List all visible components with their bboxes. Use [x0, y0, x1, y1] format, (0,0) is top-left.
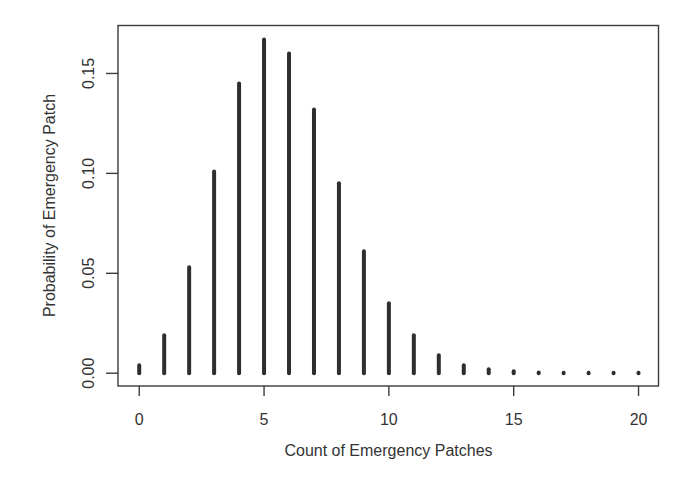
x-tick-label-0: 0 — [135, 411, 144, 428]
x-tick-label-10: 10 — [380, 411, 398, 428]
y-tick-label-0.15: 0.15 — [80, 58, 97, 89]
y-tick-label-0.05: 0.05 — [80, 258, 97, 289]
bars-group — [139, 39, 638, 373]
pmf-chart: 05101520 0.000.050.100.15 Count of Emerg… — [0, 0, 692, 478]
y-axis-title: Probability of Emergency Patch — [41, 94, 58, 317]
x-tick-label-15: 15 — [505, 411, 523, 428]
y-axis: 0.000.050.100.15 — [80, 58, 118, 389]
x-axis: 05101520 — [135, 386, 648, 428]
x-tick-label-20: 20 — [630, 411, 648, 428]
y-tick-label-0.10: 0.10 — [80, 158, 97, 189]
x-tick-label-5: 5 — [260, 411, 269, 428]
y-tick-label-0.00: 0.00 — [80, 358, 97, 389]
x-axis-title: Count of Emergency Patches — [284, 442, 492, 459]
